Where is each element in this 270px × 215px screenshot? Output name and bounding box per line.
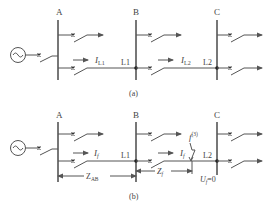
fault-lightning-icon (189, 143, 195, 161)
generator-ac-source-icon (11, 48, 26, 63)
current-label-if: If (93, 148, 100, 159)
caption-a: (a) (129, 89, 138, 98)
current-label-l1: IL1 (94, 55, 105, 66)
bus-label-a: A (56, 7, 63, 17)
current-label-l2: IL2 (180, 55, 191, 66)
power-system-diagram: A B C IL1 L1 (0, 0, 270, 215)
line-label-l2: L2 (203, 151, 212, 160)
line-label-l2: L2 (203, 58, 212, 67)
fault-voltage-label: Uf=0 (200, 175, 216, 185)
diagram-b: A B C If L1 ZAB (11, 110, 263, 201)
bus-label-b: B (133, 7, 139, 17)
current-label-if: If (179, 148, 186, 159)
line-label-l1: L1 (121, 151, 130, 160)
caption-b: (b) (129, 192, 139, 201)
generator-ac-source-icon (11, 141, 26, 156)
bus-label-b: B (133, 110, 139, 120)
bus-label-c: C (214, 7, 220, 17)
line-label-l1: L1 (121, 58, 130, 67)
bus-label-a: A (56, 110, 63, 120)
diagram-a: A B C IL1 L1 (11, 7, 263, 98)
bus-label-c: C (214, 110, 220, 120)
fault-label: f(3) (189, 131, 198, 142)
